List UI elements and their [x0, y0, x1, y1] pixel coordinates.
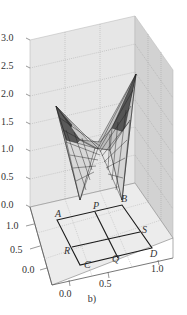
saddle-surface-figure: 3.0 2.5 2.0 1.5 1.0 0.5 0.0 1.0 0.5 0.0 …: [0, 0, 187, 315]
label-C: C: [84, 259, 91, 270]
label-P: P: [92, 200, 99, 211]
z-tick-3.0: 3.0: [1, 32, 14, 43]
y-tick-1.0: 1.0: [6, 220, 19, 231]
label-B: B: [121, 193, 127, 204]
label-R: R: [63, 245, 70, 256]
x-tick-0.5: 0.5: [99, 278, 112, 289]
label-A: A: [54, 208, 62, 219]
label-D: D: [149, 248, 158, 259]
z-axis: 3.0 2.5 2.0 1.5 1.0 0.5 0.0: [1, 32, 30, 210]
y-tick-0.5: 0.5: [10, 244, 23, 255]
label-Q: Q: [112, 253, 120, 264]
x-tick-1.0: 1.0: [151, 263, 164, 274]
label-S: S: [142, 224, 147, 235]
z-tick-0.0: 0.0: [1, 199, 14, 210]
figure-caption: b): [88, 293, 96, 305]
z-tick-2.0: 2.0: [1, 88, 14, 99]
z-tick-1.0: 1.0: [1, 143, 14, 154]
z-tick-0.5: 0.5: [1, 171, 14, 182]
z-tick-1.5: 1.5: [1, 116, 14, 127]
x-tick-0.0: 0.0: [59, 288, 72, 299]
z-tick-2.5: 2.5: [1, 60, 14, 71]
y-tick-0.0: 0.0: [22, 264, 35, 275]
